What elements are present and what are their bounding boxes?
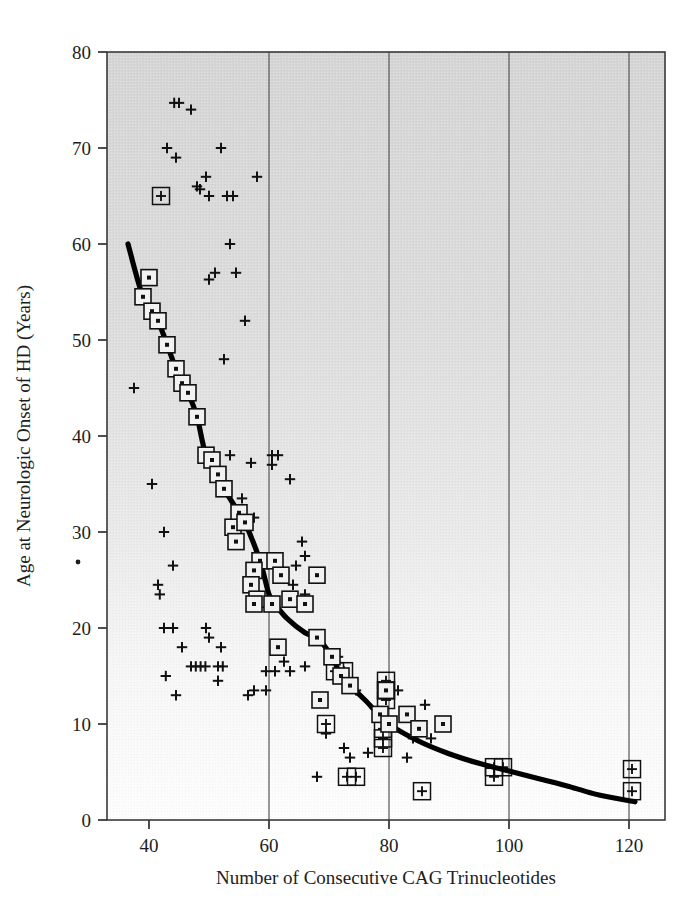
data-point-boxed-dot [159, 337, 175, 353]
marker-center-dot [318, 698, 322, 702]
marker-center-dot [417, 727, 421, 731]
marker-center-dot [141, 295, 145, 299]
data-point-boxed-dot [237, 514, 253, 530]
marker-center-dot [186, 391, 190, 395]
x-tick-label-60: 60 [260, 835, 279, 856]
y-tick-label-10: 10 [72, 714, 91, 735]
x-tick-label-120: 120 [615, 835, 644, 856]
scan-artifact-dot [76, 560, 81, 565]
data-point-boxed-dot [141, 270, 157, 286]
y-tick-label-30: 30 [72, 522, 91, 543]
marker-center-dot [405, 712, 409, 716]
y-tick-label-70: 70 [72, 138, 91, 159]
data-point-boxed-dot [297, 596, 313, 612]
x-tick-label-40: 40 [140, 835, 159, 856]
y-tick-label-80: 80 [72, 42, 91, 63]
data-point-boxed-dot [270, 639, 286, 655]
data-point-boxed-dot [267, 553, 283, 569]
marker-center-dot [384, 688, 388, 692]
data-point-boxed-dot [216, 481, 232, 497]
y-tick-label-50: 50 [72, 330, 91, 351]
marker-center-dot [231, 525, 235, 529]
data-point-boxed-dot [282, 591, 298, 607]
marker-center-dot [315, 573, 319, 577]
data-point-boxed-dot [150, 313, 166, 329]
data-point-boxed-dot [228, 534, 244, 550]
marker-center-dot [273, 559, 277, 563]
marker-center-dot [441, 722, 445, 726]
data-point-boxed-dot [435, 716, 451, 732]
x-tick-label-100: 100 [495, 835, 524, 856]
data-point-boxed-dot [378, 682, 394, 698]
marker-center-dot [279, 573, 283, 577]
marker-center-dot [216, 472, 220, 476]
data-point-boxed-dot [246, 596, 262, 612]
y-tick-label-0: 0 [82, 810, 92, 831]
data-point-boxed-dot [273, 567, 289, 583]
marker-center-dot [156, 319, 160, 323]
data-point-boxed-dot [411, 721, 427, 737]
data-point-boxed-dot [189, 409, 205, 425]
marker-center-dot [270, 602, 274, 606]
marker-center-dot [243, 520, 247, 524]
marker-center-dot [303, 602, 307, 606]
marker-center-dot [315, 636, 319, 640]
scatter-plot: 01020304050607080 406080100120 Number of… [0, 0, 695, 920]
marker-center-dot [276, 645, 280, 649]
marker-center-dot [210, 458, 214, 462]
data-point-boxed-dot [180, 385, 196, 401]
data-point-boxed-dot [312, 692, 328, 708]
y-tick-label-20: 20 [72, 618, 91, 639]
marker-center-dot [330, 655, 334, 659]
data-point-boxed-dot [342, 678, 358, 694]
data-point-boxed-dot [309, 567, 325, 583]
data-point-boxed-dot [264, 596, 280, 612]
marker-center-dot [288, 597, 292, 601]
data-point-boxed-dot [309, 630, 325, 646]
x-axis-title: Number of Consecutive CAG Trinucleotides [216, 867, 556, 888]
y-axis-title: Age at Neurologic Onset of HD (Years) [13, 285, 35, 587]
marker-center-dot [195, 415, 199, 419]
marker-center-dot [147, 276, 151, 280]
x-tick-label-80: 80 [380, 835, 399, 856]
marker-center-dot [252, 602, 256, 606]
marker-center-dot [165, 343, 169, 347]
data-point-boxed-dot [381, 716, 397, 732]
data-point-boxed-dot [168, 361, 184, 377]
data-point-boxed-dot [243, 577, 259, 593]
marker-center-dot [348, 684, 352, 688]
data-point-boxed-dot [324, 649, 340, 665]
marker-center-dot [222, 487, 226, 491]
y-tick-label-40: 40 [72, 426, 91, 447]
marker-center-dot [252, 568, 256, 572]
marker-center-dot [174, 367, 178, 371]
y-tick-label-60: 60 [72, 234, 91, 255]
marker-center-dot [234, 540, 238, 544]
marker-center-dot [387, 722, 391, 726]
chart-figure: 01020304050607080 406080100120 Number of… [0, 0, 695, 920]
marker-center-dot [249, 583, 253, 587]
data-point-boxed-dot [135, 289, 151, 305]
